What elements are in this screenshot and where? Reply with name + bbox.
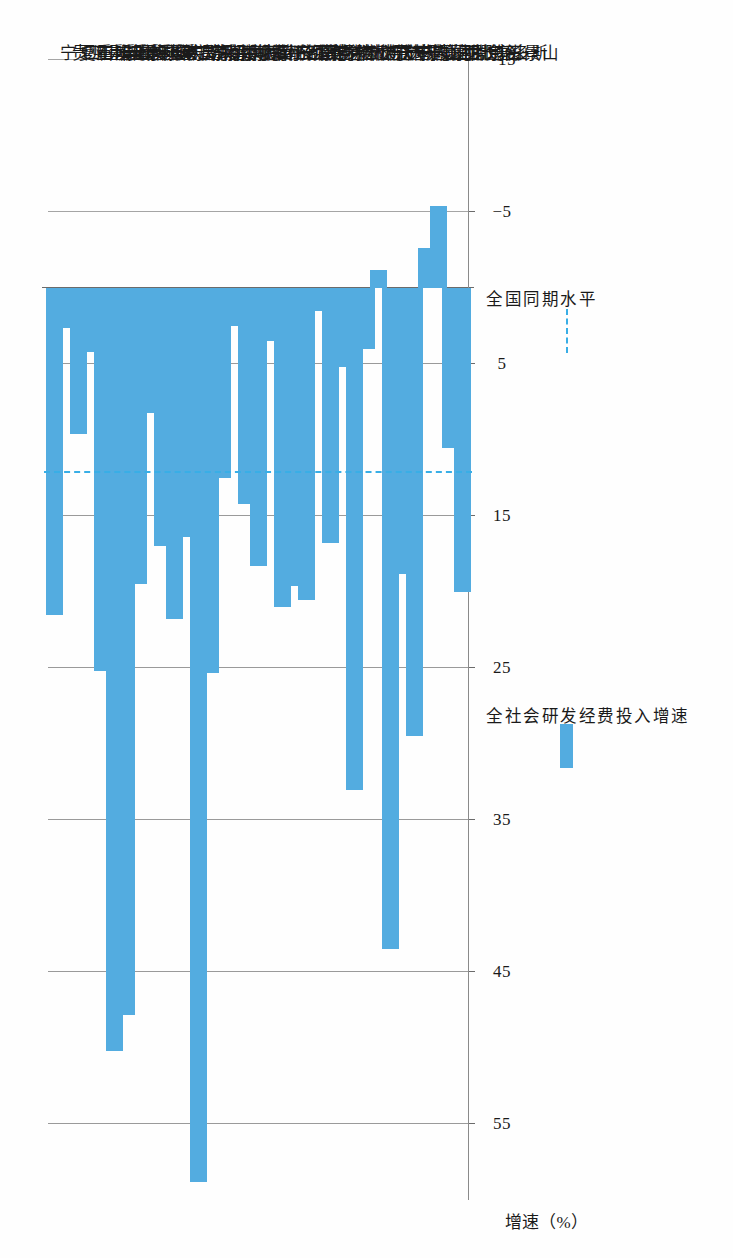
axis-tick	[468, 1123, 475, 1124]
legend-line-label: 全国同期水平	[486, 286, 597, 310]
axis-tick-label: 55	[482, 1114, 522, 1134]
axis-tick-label: 25	[482, 658, 522, 678]
gridline-negative	[48, 211, 468, 212]
axis-tick	[468, 819, 475, 820]
axis-tick-label: 15	[482, 506, 522, 526]
bar	[46, 288, 63, 615]
axis-tick	[468, 211, 475, 212]
bar	[418, 248, 435, 288]
axis-tick-label: −5	[482, 202, 522, 222]
bar	[442, 288, 459, 448]
plot-area	[48, 60, 468, 1200]
category-label: 宁夏石嘴山	[60, 46, 153, 63]
axis-tick	[468, 667, 475, 668]
category-axis-line	[468, 50, 469, 1200]
legend-bar-label: 全社会研发经费投入增速	[486, 703, 690, 727]
axis-title: 增速（%）	[502, 1208, 592, 1233]
axis-tick-label: 45	[482, 962, 522, 982]
bar	[322, 288, 339, 543]
axis-tick	[468, 971, 475, 972]
chart-stage: 增速（%） 55453525155−5−15 北京石景山河北唐山山西长治内蒙古包…	[0, 0, 733, 1258]
legend-line-swatch	[566, 309, 568, 353]
gridline	[48, 1123, 468, 1124]
national-level-reference-line	[44, 471, 472, 473]
legend-bar-swatch	[560, 724, 573, 768]
bar	[370, 270, 387, 288]
bar	[382, 288, 399, 949]
axis-tick-label: 35	[482, 810, 522, 830]
axis-tick-label: 5	[482, 354, 522, 374]
